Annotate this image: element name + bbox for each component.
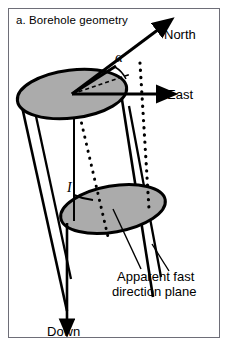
- down-label: Down: [47, 324, 80, 337]
- apparent-plane-leader-line-2: [152, 244, 169, 271]
- figure-panel: a. Borehole geometry I: [8, 8, 220, 338]
- borehole-geometry-diagram: I North East α Down Apparent fast direct…: [9, 9, 219, 337]
- east-label: East: [167, 87, 193, 102]
- north-label: North: [164, 27, 196, 42]
- apparent-plane-label-line1: Apparent fast: [117, 269, 195, 284]
- apparent-plane-label-line2: direction plane: [112, 284, 197, 299]
- azimuth-angle-label: α: [115, 49, 124, 65]
